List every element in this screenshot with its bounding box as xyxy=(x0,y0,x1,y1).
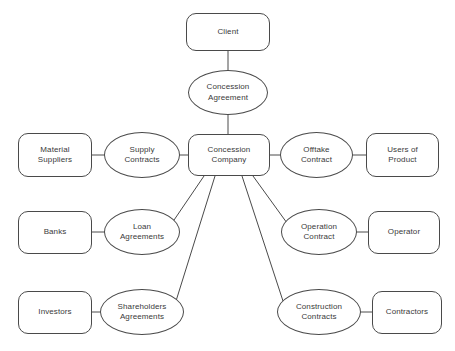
node-users-of-product[interactable]: Users of Product xyxy=(366,133,439,177)
node-concession-company[interactable]: Concession Company xyxy=(188,134,270,176)
node-users-of-product-label: Users of Product xyxy=(384,145,421,166)
node-offtake-contract-label: Offtake Contract xyxy=(298,145,335,166)
node-supply-contracts[interactable]: Supply Contracts xyxy=(104,132,180,178)
node-construction-contracts[interactable]: Construction Contracts xyxy=(277,289,361,335)
node-operator-label: Operator xyxy=(385,227,423,238)
node-investors-label: Investors xyxy=(35,307,74,318)
concession-structure-diagram: Client Concession Agreement Concession C… xyxy=(0,0,455,351)
node-banks[interactable]: Banks xyxy=(18,211,92,254)
node-operator[interactable]: Operator xyxy=(368,211,440,254)
node-banks-label: Banks xyxy=(41,227,70,238)
node-loan-agreements-label: Loan Agreements xyxy=(117,222,167,243)
node-material-suppliers[interactable]: Material Suppliers xyxy=(18,133,92,177)
node-shareholders-agreements[interactable]: Shareholders Agreements xyxy=(100,289,184,335)
node-supply-contracts-label: Supply Contracts xyxy=(121,145,162,166)
node-operation-contract[interactable]: Operation Contract xyxy=(281,209,357,255)
node-shareholders-agreements-label: Shareholders Agreements xyxy=(115,302,170,323)
node-loan-agreements[interactable]: Loan Agreements xyxy=(104,209,180,255)
node-investors[interactable]: Investors xyxy=(18,291,92,334)
edge-concession-company-construction-contracts xyxy=(242,176,283,301)
node-concession-company-label: Concession Company xyxy=(205,145,254,166)
node-concession-agreement[interactable]: Concession Agreement xyxy=(188,70,268,115)
node-operation-contract-label: Operation Contract xyxy=(298,222,340,243)
node-construction-contracts-label: Construction Contracts xyxy=(293,302,345,323)
node-offtake-contract[interactable]: Offtake Contract xyxy=(280,132,353,178)
node-contractors[interactable]: Contractors xyxy=(372,291,442,334)
edge-shareholders-agreements-concession-company xyxy=(176,176,215,301)
node-contractors-label: Contractors xyxy=(383,307,431,318)
edge-concession-company-operation-contract xyxy=(253,176,287,223)
node-concession-agreement-label: Concession Agreement xyxy=(204,82,253,103)
node-client[interactable]: Client xyxy=(186,13,270,51)
edge-loan-agreements-concession-company xyxy=(172,176,204,223)
node-client-label: Client xyxy=(214,27,241,38)
node-material-suppliers-label: Material Suppliers xyxy=(35,145,75,166)
